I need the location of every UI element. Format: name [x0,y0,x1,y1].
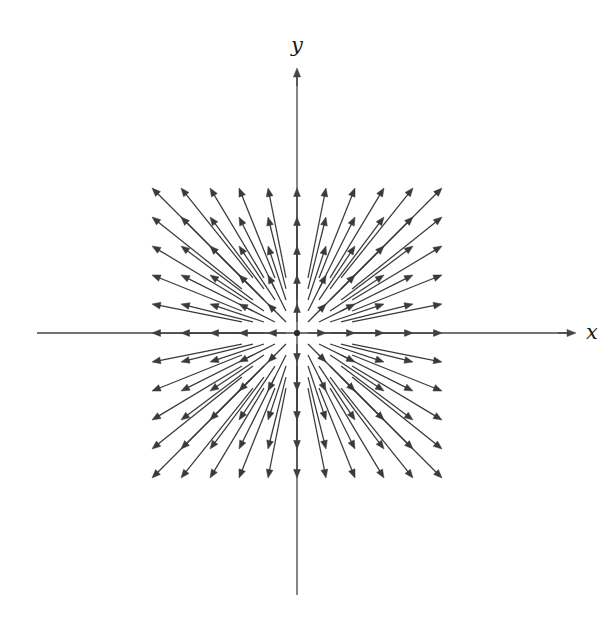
plot-background [0,0,612,625]
y-axis-label: y [290,33,304,57]
origin-marker [294,330,300,336]
x-axis-label: x [586,320,598,344]
vector-field-figure: y x [0,0,612,625]
vector-field-plot: y x [0,0,612,625]
